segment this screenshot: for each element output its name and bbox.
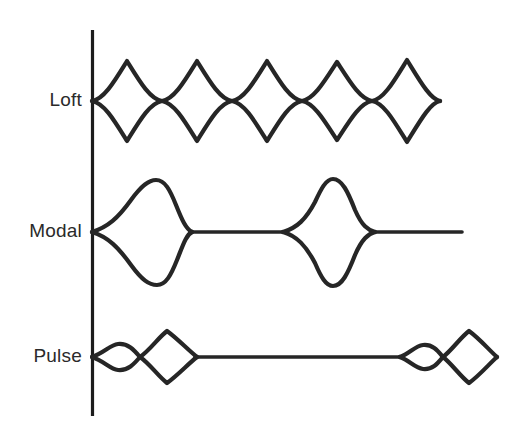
- pulse-burst2-upper-envelope: [140, 331, 197, 357]
- modal-burst1-lower-envelope: [92, 232, 192, 285]
- waveform-loft: [92, 60, 440, 142]
- loft-lower-envelope: [92, 101, 440, 142]
- modal-burst2-lower-envelope: [283, 232, 375, 286]
- pulse-burst1-upper-envelope: [92, 344, 140, 357]
- row-label-loft: Loft: [0, 89, 82, 111]
- figure-canvas: Loft Modal Pulse: [0, 0, 527, 444]
- pulse-burst4-upper-envelope: [443, 331, 497, 357]
- waveform-pulse: [92, 331, 497, 383]
- pulse-burst3-upper-envelope: [400, 345, 443, 357]
- pulse-burst3-lower-envelope: [400, 357, 443, 369]
- pulse-burst1-lower-envelope: [92, 357, 140, 370]
- row-label-modal: Modal: [0, 220, 82, 242]
- modal-burst2-upper-envelope: [283, 179, 375, 232]
- loft-upper-envelope: [92, 60, 440, 101]
- pulse-burst4-lower-envelope: [443, 357, 497, 383]
- pulse-burst2-lower-envelope: [140, 357, 197, 383]
- row-label-pulse: Pulse: [0, 345, 82, 367]
- waveform-modal: [92, 179, 462, 286]
- modal-burst1-upper-envelope: [92, 180, 192, 232]
